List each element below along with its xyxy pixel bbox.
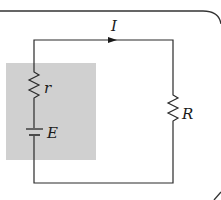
load-resistor-symbol	[168, 93, 178, 128]
current-arrow-icon	[108, 37, 117, 43]
internal-resistance-label: r	[44, 79, 52, 97]
circuit-diagram: I r E R	[0, 0, 221, 200]
frame-corner-bottom	[214, 192, 221, 200]
emf-label: E	[46, 124, 58, 142]
load-resistance-label: R	[181, 105, 193, 123]
current-label: I	[110, 17, 118, 35]
battery-shaded-region	[6, 63, 96, 160]
